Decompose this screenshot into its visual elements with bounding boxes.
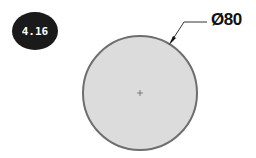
diameter-dimension-label: Ø80 xyxy=(211,10,242,30)
leader-arrow-icon xyxy=(169,36,176,45)
leader-line xyxy=(171,22,207,42)
